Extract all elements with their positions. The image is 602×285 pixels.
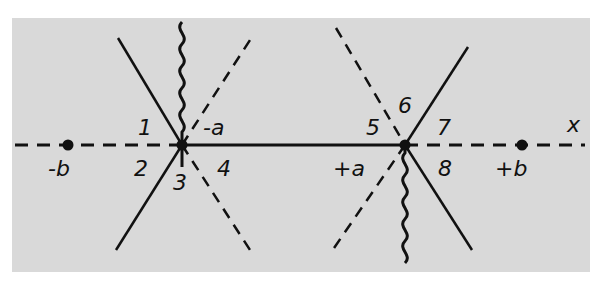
point-plus-b	[517, 140, 528, 151]
dashed-minus-a-lower-right	[182, 145, 250, 250]
label-plus-a: +a	[333, 158, 365, 180]
label-plus-b: +b	[495, 158, 527, 180]
branch-cut-diagram	[0, 0, 602, 285]
region-label-1: 1	[138, 117, 152, 139]
point-plus-a	[400, 140, 411, 151]
region-label-7: 7	[437, 117, 451, 139]
region-label-3: 3	[173, 172, 187, 194]
region-label-4: 4	[217, 158, 231, 180]
label-minus-a: -a	[203, 117, 224, 139]
label-minus-b: -b	[48, 158, 70, 180]
region-label-8: 8	[438, 158, 452, 180]
point-minus-a	[177, 140, 188, 151]
region-label-2: 2	[134, 158, 148, 180]
axis-label-x: x	[567, 114, 580, 136]
line-minus-a-lower-left	[116, 145, 182, 250]
region-label-6: 6	[398, 95, 412, 117]
point-minus-b	[63, 140, 74, 151]
region-label-5: 5	[366, 117, 380, 139]
wavy-branch-cut-lower	[403, 145, 408, 263]
